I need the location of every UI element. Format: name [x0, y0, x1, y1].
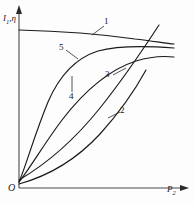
curve-label-4: 4	[69, 92, 74, 101]
x-axis	[19, 185, 189, 191]
curve-label-2: 2	[120, 106, 125, 115]
origin-label: O	[8, 183, 15, 193]
curve-label-1: 1	[104, 17, 109, 26]
leader-line-5	[66, 50, 78, 59]
curve-3-path	[19, 25, 159, 180]
leader-line-1	[92, 26, 104, 35]
x-axis-label: P2	[167, 185, 176, 196]
x-axis-label-sub: 2	[173, 189, 176, 196]
leader-line-3	[113, 68, 126, 75]
curve-label-3: 3	[105, 70, 110, 79]
y-axis-label: I1,η	[3, 14, 16, 25]
y-axis-label-tail: ,η	[9, 13, 16, 23]
curve-4-path	[19, 56, 174, 182]
y-axis	[16, 5, 22, 188]
motor-characteristic-chart: I1,η P2 O 1 2 3 4 5	[0, 0, 194, 205]
curve-5-path	[19, 46, 174, 182]
curve-label-5: 5	[59, 43, 64, 52]
chart-canvas	[0, 0, 194, 205]
